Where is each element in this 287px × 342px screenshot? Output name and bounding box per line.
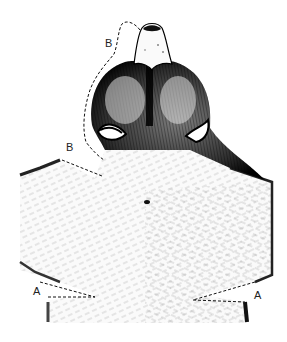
pelt-illustration xyxy=(0,0,287,342)
label-a-left: A xyxy=(33,286,40,297)
label-b-lower: B xyxy=(66,142,73,153)
label-a-right: A xyxy=(254,290,261,301)
snout xyxy=(134,24,172,71)
body-region xyxy=(20,150,272,323)
label-b-upper: B xyxy=(105,38,112,49)
